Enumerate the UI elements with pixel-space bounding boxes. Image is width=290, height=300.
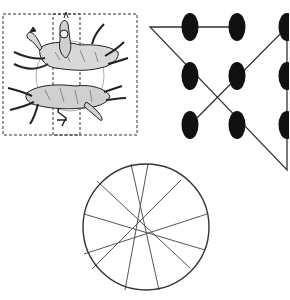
horse-rider-puzzle	[0, 0, 142, 140]
dot-grid	[182, 13, 290, 139]
dot-2	[229, 13, 246, 41]
dot-5	[229, 62, 246, 90]
dot-9	[279, 111, 290, 139]
dot-4	[182, 62, 199, 90]
horse-rider-illustration	[0, 0, 142, 140]
bottom-horse-icon	[8, 85, 126, 124]
chords	[84, 164, 207, 290]
dot-3	[279, 13, 290, 41]
dot-1	[182, 13, 199, 41]
chord-5	[84, 214, 205, 250]
solution-line	[150, 27, 287, 170]
dot-6	[279, 62, 290, 90]
chord-circle-diagram	[70, 150, 230, 300]
dot-7	[182, 111, 199, 139]
outer-dashed-frame	[3, 14, 137, 135]
dot-8	[229, 111, 246, 139]
solution-path	[150, 27, 287, 170]
chord-4	[92, 180, 181, 269]
circle-chords-svg	[70, 150, 230, 300]
